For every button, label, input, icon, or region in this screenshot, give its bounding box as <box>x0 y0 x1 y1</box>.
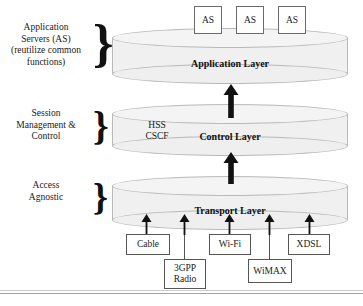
access-box-label: Wi-Fi <box>219 239 241 250</box>
control-layer-sublabel: HSS CSCF <box>132 120 182 142</box>
brace-application: } <box>93 18 114 70</box>
access-box-wifi[interactable]: Wi-Fi <box>209 234 251 255</box>
access-box-label: WiMAX <box>253 266 286 277</box>
application-layer-label: Application Layer <box>112 58 348 69</box>
side-label-session-management: Session Management & Control <box>0 108 92 143</box>
side-label-line: Application Servers (AS) (reutilize comm… <box>0 22 92 68</box>
access-box-label: 3GPP Radio <box>174 263 197 285</box>
arrow-control-to-application <box>222 84 240 122</box>
access-box-xdsl[interactable]: XDSL <box>288 234 330 255</box>
divider-bottom <box>0 293 363 294</box>
cylinder-top-ellipse <box>112 28 348 48</box>
as-box-label: AS <box>244 15 256 25</box>
as-box-1[interactable]: AS <box>194 6 222 34</box>
brace-transport: } <box>93 178 108 216</box>
as-box-2[interactable]: AS <box>236 6 264 34</box>
ims-architecture-diagram: Application Servers (AS) (reutilize comm… <box>0 0 363 306</box>
access-box-label: XDSL <box>297 239 322 250</box>
side-label-access-agnostic: Access Agnostic <box>0 180 92 203</box>
brace-control: } <box>93 106 109 146</box>
access-box-wimax[interactable]: WiMAX <box>248 259 292 283</box>
arrow-3gpp-radio <box>179 214 190 239</box>
side-label-application-servers: Application Servers (AS) (reutilize comm… <box>0 22 92 68</box>
access-box-cable[interactable]: Cable <box>126 234 170 255</box>
as-box-label: AS <box>202 15 214 25</box>
access-box-label: Cable <box>137 239 159 250</box>
as-box-3[interactable]: AS <box>278 6 306 34</box>
transport-layer-label: Transport Layer <box>112 205 348 216</box>
side-label-line: Session Management & Control <box>0 108 92 143</box>
as-box-label: AS <box>286 15 298 25</box>
arrow-wimax <box>264 214 275 239</box>
application-layer-cylinder[interactable]: Application Layer <box>112 28 348 84</box>
access-box-3gpp-radio[interactable]: 3GPP Radio <box>164 259 206 289</box>
side-label-line: Access Agnostic <box>0 180 92 203</box>
arrow-transport-to-control <box>222 152 240 188</box>
divider-top <box>0 290 363 291</box>
